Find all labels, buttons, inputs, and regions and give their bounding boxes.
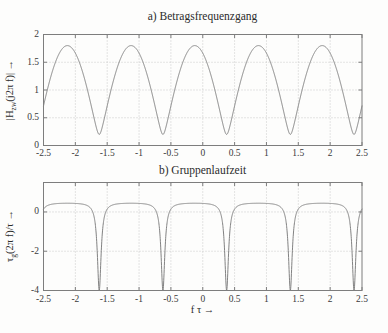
- x-tick-label: -0.5: [155, 294, 187, 305]
- x-tick-label: 2.5: [346, 294, 378, 305]
- x-tick-label: 0.5: [219, 148, 251, 159]
- x-tick-label: -1: [123, 148, 155, 159]
- x-tick-label: -1.5: [91, 294, 123, 305]
- x-tick-label: 0.5: [219, 294, 251, 305]
- plot-b-title: b) Gruppenlaufzeit: [43, 164, 362, 176]
- y-tick-label: 0: [4, 140, 39, 151]
- x-tick-label: -2: [59, 148, 91, 159]
- plot-a-title: a) Betragsfrequenzgang: [43, 10, 362, 22]
- x-tick-label: -1.5: [91, 148, 123, 159]
- x-tick-label: 0: [187, 294, 219, 305]
- x-tick-label: 2: [314, 148, 346, 159]
- ylabel-b-pre: τ: [4, 258, 15, 262]
- x-tick-label: 1: [250, 148, 282, 159]
- subscript: zw: [9, 102, 18, 111]
- x-tick-label: 2: [314, 294, 346, 305]
- y-tick-label: 2: [4, 29, 39, 40]
- y-tick-label: -2: [4, 246, 39, 257]
- x-axis-label: f τ →: [43, 304, 362, 315]
- x-tick-label: 2.5: [346, 148, 378, 159]
- x-tick-label: 0: [187, 148, 219, 159]
- x-tick-label: -0.5: [155, 148, 187, 159]
- x-tick-label: 1: [250, 294, 282, 305]
- x-tick-label: 1.5: [282, 294, 314, 305]
- y-tick-label: 0: [4, 206, 39, 217]
- y-tick-label: 1: [4, 85, 39, 96]
- x-tick-label: -1: [123, 294, 155, 305]
- y-tick-label: -4: [4, 285, 39, 296]
- y-tick-label: 1.5: [4, 57, 39, 68]
- plot-b-ylabel: τg(2π f)/τ →: [3, 176, 17, 296]
- y-tick-label: 0.5: [4, 112, 39, 123]
- x-tick-label: -2: [59, 294, 91, 305]
- x-tick-label: 1.5: [282, 148, 314, 159]
- figure: a) Betragsfrequenzgang b) Gruppenlaufzei…: [0, 0, 388, 333]
